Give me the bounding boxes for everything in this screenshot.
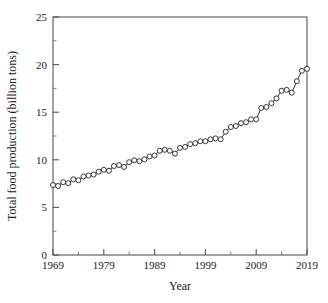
data-point-marker (111, 163, 116, 168)
data-point-marker (137, 159, 142, 164)
data-point-marker (117, 163, 122, 168)
data-point-marker (279, 88, 284, 93)
data-point-marker (81, 174, 86, 179)
data-point-marker (61, 180, 66, 185)
data-point-marker (96, 169, 101, 174)
data-point-marker (193, 141, 198, 146)
chart-canvas: 196919791989199920092019 0510152025 Year… (0, 0, 328, 303)
y-tick-label: 25 (36, 11, 48, 23)
x-axis-title: Year (169, 279, 191, 293)
data-point-marker (101, 167, 106, 172)
data-point-marker (198, 139, 203, 144)
data-point-marker (269, 101, 274, 106)
data-series (51, 66, 310, 188)
data-point-marker (167, 148, 172, 153)
data-point-marker (178, 145, 183, 150)
y-tick-label: 20 (36, 59, 48, 71)
data-point-marker (172, 151, 177, 156)
data-point-marker (218, 137, 223, 142)
data-point-marker (188, 142, 193, 147)
y-tick-labels: 0510152025 (36, 11, 48, 261)
series-line (53, 69, 307, 186)
data-point-marker (162, 147, 167, 152)
data-point-marker (142, 157, 147, 162)
x-tick-label: 1979 (93, 259, 116, 271)
data-point-marker (244, 120, 249, 125)
x-tick-label: 2009 (245, 259, 268, 271)
data-point-marker (274, 96, 279, 101)
data-point-marker (208, 137, 213, 142)
data-point-marker (127, 160, 132, 165)
data-point-marker (228, 124, 233, 129)
data-point-marker (299, 68, 304, 73)
y-axis-title: Total food production (billion tons) (5, 51, 19, 221)
data-point-marker (106, 168, 111, 173)
data-point-marker (259, 105, 264, 110)
data-point-marker (289, 90, 294, 95)
data-point-marker (213, 136, 218, 141)
data-point-marker (249, 117, 254, 122)
data-point-marker (76, 178, 81, 183)
data-point-marker (132, 158, 137, 163)
chart-figure: 196919791989199920092019 0510152025 Year… (0, 0, 328, 303)
data-point-marker (51, 183, 56, 188)
data-point-marker (152, 153, 157, 158)
axis-frame (53, 17, 307, 255)
y-tick-label: 10 (36, 154, 48, 166)
data-point-marker (305, 66, 310, 71)
data-point-marker (223, 129, 228, 134)
data-point-marker (147, 154, 152, 159)
data-point-marker (86, 173, 91, 178)
data-point-marker (157, 148, 162, 153)
x-tick-label: 1999 (194, 259, 217, 271)
data-point-marker (91, 172, 96, 177)
data-point-marker (183, 144, 188, 149)
y-tick-label: 5 (42, 201, 48, 213)
data-point-marker (284, 87, 289, 92)
y-tick-label: 0 (42, 249, 48, 261)
x-tick-labels: 196919791989199920092019 (42, 259, 319, 271)
x-tick-label: 2019 (296, 259, 319, 271)
plot-border (53, 17, 307, 255)
y-tick-label: 15 (36, 106, 48, 118)
data-point-marker (254, 117, 259, 122)
data-point-marker (238, 121, 243, 126)
axis-ticks (53, 17, 307, 255)
data-point-marker (66, 181, 71, 186)
data-point-marker (233, 124, 238, 129)
data-point-marker (56, 183, 61, 188)
data-point-marker (203, 139, 208, 144)
data-point-marker (122, 164, 127, 169)
data-point-marker (294, 79, 299, 84)
data-point-marker (71, 177, 76, 182)
x-tick-label: 1989 (144, 259, 167, 271)
data-point-marker (264, 104, 269, 109)
